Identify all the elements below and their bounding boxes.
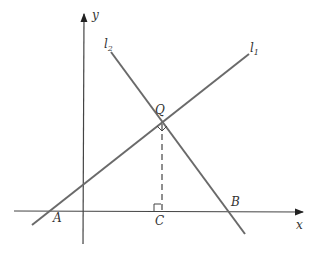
y-axis — [83, 14, 84, 244]
label-point-c: C — [155, 214, 164, 228]
right-angle-mark-c — [154, 204, 161, 211]
label-l2: l2 — [104, 37, 113, 53]
line-l2 — [111, 52, 245, 234]
y-axis-label: y — [91, 8, 99, 22]
label-l1: l1 — [250, 41, 259, 57]
x-axis-label: x — [296, 218, 303, 232]
line-l1 — [32, 54, 249, 225]
label-point-b: B — [230, 195, 240, 209]
label-point-q: Q — [155, 103, 165, 117]
coordinate-diagram: y x l2 l1 Q A C B — [0, 0, 329, 254]
label-point-a: A — [52, 211, 62, 225]
